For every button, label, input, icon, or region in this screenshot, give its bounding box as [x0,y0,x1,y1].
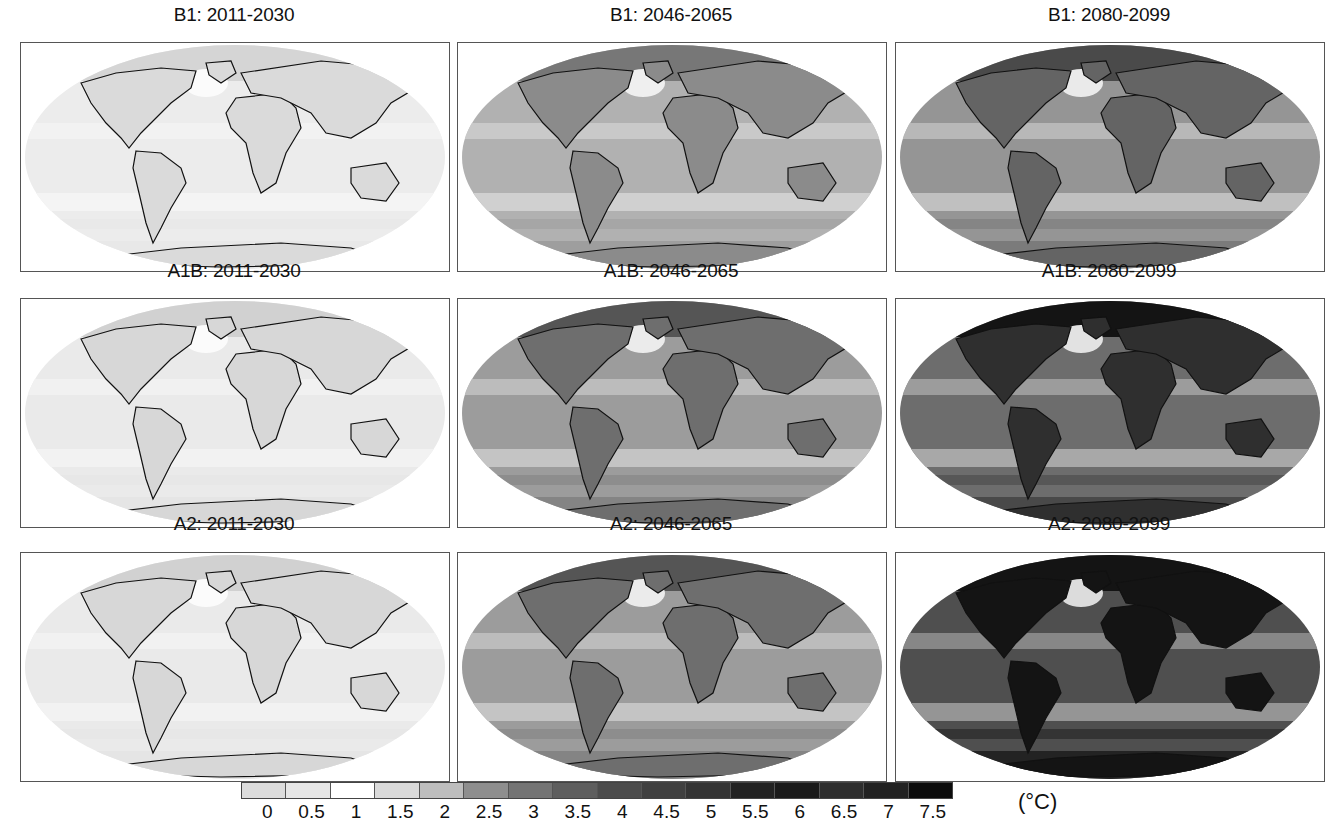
colorbar-tick-label: 2 [439,801,450,823]
colorbar-tick-label: 1.5 [387,801,413,823]
colorbar-tick-label: 4 [617,801,628,823]
colorbar-tick-label: 6 [794,801,805,823]
colorbar-swatch [375,783,419,798]
map-panel [20,298,450,528]
colorbar-tick-label: 7.5 [920,801,946,823]
panel-title: A1B: 2046-2065 [451,260,891,282]
colorbar-unit-label: (°C) [1018,789,1057,815]
panel-title: B1: 2080-2099 [889,4,1329,26]
colorbar-swatch [642,783,686,798]
colorbar-swatch [242,783,286,798]
colorbar-swatch [331,783,375,798]
colorbar-tick-label: 6.5 [831,801,857,823]
colorbar-swatch [909,783,952,798]
colorbar [241,782,953,799]
colorbar-tick-label: 5 [706,801,717,823]
colorbar-tick-label: 0.5 [298,801,324,823]
panel-title: A1B: 2011-2030 [14,260,454,282]
panel-title: B1: 2046-2065 [451,4,891,26]
colorbar-tick-label: 4.5 [653,801,679,823]
colorbar-tick-label: 0 [262,801,273,823]
colorbar-swatch [464,783,508,798]
map-panel [20,552,450,782]
panel-title: A2: 2011-2030 [14,513,454,535]
colorbar-swatch [509,783,553,798]
colorbar-swatch [553,783,597,798]
colorbar-swatch [775,783,819,798]
colorbar-tick-label: 3.5 [565,801,591,823]
colorbar-tick-label: 1 [351,801,362,823]
colorbar-swatch [598,783,642,798]
map-panel [457,42,887,272]
colorbar-swatch [820,783,864,798]
map-panel [895,552,1325,782]
colorbar-tick-label: 2.5 [476,801,502,823]
panel-title: A1B: 2080-2099 [889,260,1329,282]
colorbar-swatch [864,783,908,798]
colorbar-tick-label: 3 [528,801,539,823]
colorbar-swatch [286,783,330,798]
panel-title: A2: 2046-2065 [451,513,891,535]
colorbar-tick-label: 7 [883,801,894,823]
map-panel [457,552,887,782]
colorbar-tick-label: 5.5 [742,801,768,823]
map-panel [895,298,1325,528]
colorbar-swatch [686,783,730,798]
panel-title: B1: 2011-2030 [14,4,454,26]
colorbar-ticks: 00.511.522.533.544.555.566.577.5 [241,801,951,825]
map-panel [20,42,450,272]
colorbar-swatch [731,783,775,798]
colorbar-swatch [420,783,464,798]
panel-title: A2: 2080-2099 [889,513,1329,535]
map-panel [895,42,1325,272]
map-panel [457,298,887,528]
